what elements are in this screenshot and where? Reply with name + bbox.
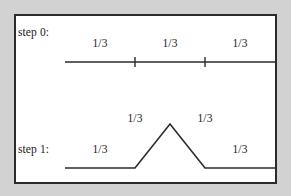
step1-segment-label-3: 1/3	[198, 113, 213, 125]
step1-row-label: step 1:	[18, 144, 49, 156]
step0-segment-label-1: 1/3	[93, 38, 108, 50]
step1-segment-label-2: 1/3	[128, 113, 143, 125]
step0-segment-label-2: 1/3	[163, 38, 178, 50]
figure-root: step 0: 1/3 1/3 1/3 step 1: 1/3 1/3 1/3 …	[0, 0, 291, 196]
step0-segment-label-3: 1/3	[233, 38, 248, 50]
step1-segment-label-1: 1/3	[93, 144, 108, 156]
step1-segment-label-4: 1/3	[233, 144, 248, 156]
step0-row-label: step 0:	[18, 27, 49, 39]
